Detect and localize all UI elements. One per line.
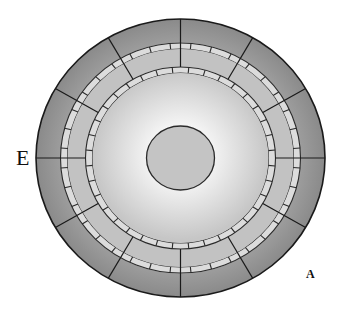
label-e: E	[16, 147, 29, 169]
concentric-ring-diagram	[0, 0, 343, 313]
label-a: A	[306, 268, 315, 280]
central-disc	[147, 126, 215, 190]
